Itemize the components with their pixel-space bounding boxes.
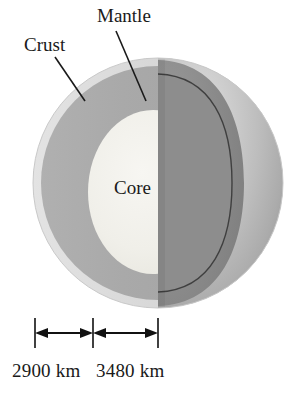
cutaway-interior-shell: [158, 58, 283, 308]
core-label: Core: [114, 178, 151, 197]
crust-label: Crust: [24, 35, 65, 54]
arrowhead-left-west: [35, 328, 48, 338]
mantle-label: Mantle: [97, 6, 151, 25]
planet-cutaway-svg: [0, 0, 301, 399]
scale-label-2900km: 2900 km: [12, 361, 80, 380]
arrowhead-right-east: [145, 328, 158, 338]
arrowhead-left-east: [80, 328, 93, 338]
interior-structure-diagram: Crust Mantle Core 2900 km 3480 km: [0, 0, 301, 399]
scale-bar-group: [35, 318, 158, 348]
scale-label-3480km: 3480 km: [96, 361, 164, 380]
cut-plane-shadow: [158, 58, 165, 308]
arrowhead-right-west: [93, 328, 106, 338]
